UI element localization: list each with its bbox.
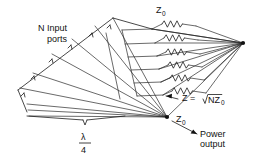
output-node-dot (241, 41, 245, 45)
z0-bottom-subscript: 0 (182, 119, 186, 126)
input-port-marker-4 (49, 59, 53, 63)
resistor-2 (155, 35, 198, 43)
resistor-return-lines (196, 26, 243, 93)
quarter-wavelength-label: λ 4 (79, 132, 91, 155)
combine-node-dot (165, 115, 169, 119)
impedance-arrow (166, 94, 178, 99)
input-port-marker-3 (68, 45, 72, 49)
lambda-numerator: λ (81, 132, 86, 142)
z0-top-label: Z 0 (156, 5, 166, 17)
z0-bottom-label: Z 0 (176, 114, 186, 126)
impedance-formula-subscript: 0 (221, 99, 225, 106)
combiner-schematic-canvas: N Input ports Z 0 Z 0 Z = NZ 0 Power out… (0, 0, 255, 156)
schematic-diagram: N Input ports Z 0 Z 0 Z = NZ 0 Power out… (0, 0, 255, 156)
impedance-formula-lhs: Z = (182, 93, 195, 103)
resistor-5 (161, 75, 204, 82)
resistor-bank (152, 21, 206, 95)
power-output-label-line1: Power (200, 129, 226, 139)
quarter-wave-brace (27, 116, 125, 125)
impedance-formula-label: Z = NZ 0 (182, 93, 225, 106)
impedance-formula-radicand: NZ (208, 95, 220, 105)
input-ports-label-line1: N Input (38, 23, 68, 33)
z0-top-subscript: 0 (162, 10, 166, 17)
input-port-marker-6 (21, 93, 25, 97)
lambda-denominator: 4 (81, 145, 86, 155)
input-port-marker-1 (107, 25, 111, 29)
resistor-1 (152, 21, 196, 29)
power-output-label-line2: output (200, 139, 226, 149)
input-ports-label-line2: ports (47, 34, 68, 44)
